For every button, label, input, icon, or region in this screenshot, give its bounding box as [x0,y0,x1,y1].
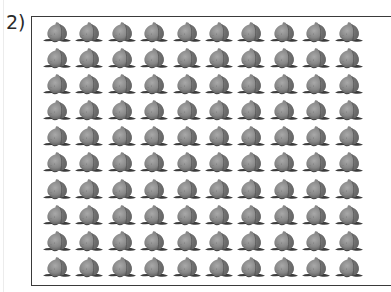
peach-icon [41,124,73,150]
peach-icon [138,229,170,255]
peach-icon [300,229,332,255]
peach-icon [268,124,300,150]
peach-icon [41,229,73,255]
peach-icon [106,150,138,176]
peach-icon [333,98,365,124]
peach-icon [235,150,267,176]
peach-icon [41,72,73,98]
peach-icon [171,177,203,203]
peach-icon [203,98,235,124]
peach-icon [235,98,267,124]
peach-icon [203,46,235,72]
peach-icon [300,124,332,150]
peach-icon [333,124,365,150]
peach-icon [106,255,138,281]
peach-icon [333,255,365,281]
peach-icon [333,46,365,72]
peach-icon [333,229,365,255]
peach-icon [268,229,300,255]
peach-icon [268,255,300,281]
peach-icon [138,177,170,203]
peach-icon [138,203,170,229]
peach-icon [203,203,235,229]
peach-icon [268,20,300,46]
peach-icon [171,124,203,150]
peach-icon [333,177,365,203]
peach-icon [300,98,332,124]
peach-icon [106,124,138,150]
peach-icon [235,229,267,255]
peach-icon [300,203,332,229]
peach-icon [171,203,203,229]
peach-icon [171,72,203,98]
peach-icon [73,203,105,229]
peach-icon [203,229,235,255]
peach-icon [171,98,203,124]
peach-icon [235,203,267,229]
peach-icon [138,98,170,124]
peach-icon [235,20,267,46]
peach-icon [73,150,105,176]
peach-icon [203,177,235,203]
peach-icon [138,255,170,281]
peach-icon [41,20,73,46]
peach-icon [73,72,105,98]
peach-icon [41,255,73,281]
peach-icon [235,177,267,203]
peach-icon [268,72,300,98]
peach-icon [300,150,332,176]
peach-icon [268,98,300,124]
peach-icon [171,255,203,281]
peach-icon [235,72,267,98]
peach-icon [73,20,105,46]
peach-icon [333,72,365,98]
peach-icon [138,46,170,72]
peach-icon [203,124,235,150]
peach-icon [203,20,235,46]
peach-icon [333,203,365,229]
peach-icon [171,229,203,255]
peach-icon [73,177,105,203]
peach-icon [41,150,73,176]
problem-number-label: 2) [6,11,26,33]
peach-icon [268,150,300,176]
peach-icon [235,255,267,281]
peach-grid [41,20,365,281]
peach-icon [41,46,73,72]
peach-icon [138,124,170,150]
page-edge-line [3,0,4,292]
peach-icon [73,124,105,150]
peach-icon [235,46,267,72]
peach-icon [106,20,138,46]
peach-icon [106,46,138,72]
peach-icon [41,203,73,229]
peach-icon [300,46,332,72]
peach-icon [106,98,138,124]
peach-icon [73,229,105,255]
peach-icon [106,177,138,203]
peach-icon [300,255,332,281]
peach-icon [203,150,235,176]
peach-icon [300,72,332,98]
peach-icon [171,20,203,46]
peach-icon [73,98,105,124]
peach-icon [138,150,170,176]
peach-icon [138,72,170,98]
peach-icon [333,20,365,46]
peach-icon [106,72,138,98]
peach-icon [106,229,138,255]
peach-icon [268,46,300,72]
peach-icon [268,203,300,229]
peach-icon [203,72,235,98]
peach-icon [73,46,105,72]
peach-icon [235,124,267,150]
peach-icon [171,150,203,176]
peach-icon [41,177,73,203]
peach-icon [203,255,235,281]
peach-icon [73,255,105,281]
peach-icon [138,20,170,46]
peach-icon [300,177,332,203]
peach-icon [106,203,138,229]
peach-icon [171,46,203,72]
peach-icon [300,20,332,46]
